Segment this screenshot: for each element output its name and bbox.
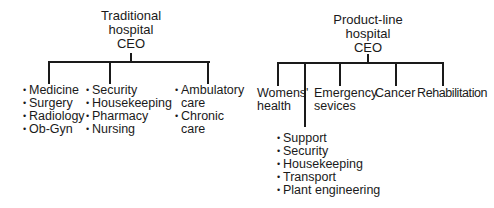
- product-line-ceo-title: Product-line hospital CEO: [328, 13, 408, 55]
- connector-line: [109, 61, 111, 84]
- traditional-ceo-title: Traditional hospital CEO: [91, 9, 171, 51]
- product-line-emergency-services: Emergency sevices: [314, 87, 377, 113]
- connector-line: [442, 62, 444, 86]
- department-group-clinical: •Medicine •Surgery •Radiology •Ob-Gyn: [23, 84, 85, 136]
- connector-line: [48, 61, 210, 63]
- connector-line: [339, 62, 341, 86]
- list-item: •Chronic care: [175, 110, 244, 136]
- product-line-rehabilitation: Rehabilitation: [417, 87, 487, 100]
- product-line-cancer: Cancer: [375, 87, 415, 100]
- department-group-care: •Ambulatory care •Chronic care: [175, 84, 244, 136]
- list-item: •Nursing: [86, 123, 172, 136]
- connector-line: [277, 62, 444, 64]
- list-item: •Plant engineering: [277, 184, 380, 197]
- list-item: •Ambulatory care: [175, 84, 244, 110]
- department-group-support: •Security •Housekeeping •Pharmacy •Nursi…: [86, 84, 172, 136]
- connector-line: [207, 61, 209, 84]
- connector-line: [277, 62, 279, 86]
- connector-line: [48, 61, 50, 84]
- product-line-womens-health: Womens' health: [257, 87, 308, 113]
- connector-line: [395, 62, 397, 86]
- list-item: •Ob-Gyn: [23, 123, 85, 136]
- support-services-group: •Support •Security •Housekeeping •Transp…: [277, 132, 380, 197]
